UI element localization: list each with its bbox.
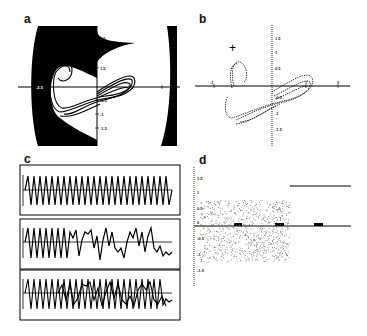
b-ytick-5: -1 xyxy=(275,111,279,116)
b-ytick-2: 0.5 xyxy=(275,66,281,71)
figure-canvas: -2.5 2.5 2 1.5 -0.5 -1 -1.5 -1 1 2 1.5 1… xyxy=(0,0,367,336)
d-ytick-0: 1.5 xyxy=(197,176,203,181)
b-cross-marker: + xyxy=(229,41,236,55)
b-ytick-6: -1.5 xyxy=(275,127,283,132)
c-trace-2 xyxy=(25,228,172,260)
panel-c xyxy=(20,165,180,320)
panel-d: 1.5 1 0.5 0 -0.5 -1 -1.5 xyxy=(194,167,351,287)
d-ytick-6: -1.5 xyxy=(197,268,205,273)
b-ytick-0: 1.5 xyxy=(275,36,281,41)
a-ytick-0: 2.5 xyxy=(100,36,106,41)
a-ytick-2: 1.5 xyxy=(100,66,106,71)
b-xtick-2: 2 xyxy=(337,80,340,85)
b-xtick-0: -1 xyxy=(210,80,214,85)
panel-b: -1 1 2 1.5 1 0.5 -0.5 -1 -1.5 + xyxy=(195,25,350,146)
d-ytick-1: 1 xyxy=(197,190,200,195)
panel-a: -2.5 2.5 2 1.5 -0.5 -1 -1.5 xyxy=(18,26,180,146)
c-trace-1 xyxy=(25,176,172,205)
a-ytick-4: -1 xyxy=(100,112,104,117)
b-ytick-1: 1 xyxy=(275,50,278,55)
d-ytick-3: 0 xyxy=(197,220,200,225)
d-scatter-points xyxy=(200,200,291,263)
a-xtick-left: -2.5 xyxy=(36,85,44,90)
d-ytick-5: -1 xyxy=(197,252,201,257)
a-ytick-5: -1.5 xyxy=(100,126,108,131)
